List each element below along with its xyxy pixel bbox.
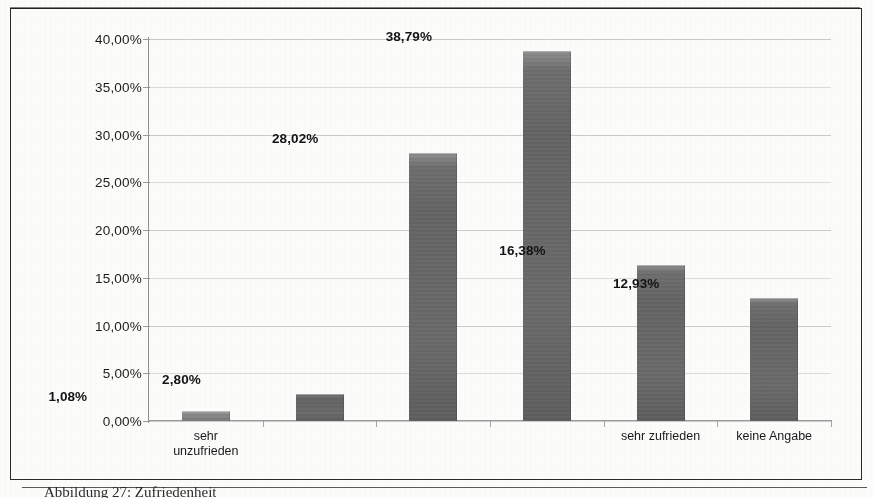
bar-value-label: 12,93%	[613, 276, 659, 291]
x-axis-label-line: keine Angabe	[736, 429, 812, 444]
y-axis-tick	[143, 230, 150, 231]
x-axis-tick	[263, 421, 264, 427]
x-axis-tick	[831, 421, 832, 427]
gridline	[149, 39, 831, 40]
y-axis-tick-label: 40,00%	[95, 32, 142, 47]
x-axis-category-label: sehr zufrieden	[621, 429, 700, 444]
y-axis-tick	[143, 182, 150, 183]
gridline	[149, 373, 831, 374]
bar	[296, 394, 344, 421]
x-axis-label-line: unzufrieden	[173, 444, 238, 459]
y-axis-tick-label: 5,00%	[103, 366, 142, 381]
bar	[182, 411, 230, 421]
bar	[750, 298, 798, 421]
bar-value-label: 28,02%	[272, 131, 318, 146]
bar	[523, 51, 571, 421]
x-axis-label-line: sehr zufrieden	[621, 429, 700, 444]
y-axis-tick-label: 0,00%	[103, 414, 142, 429]
y-axis-tick-label: 25,00%	[95, 175, 142, 190]
bar-value-label: 2,80%	[162, 372, 201, 387]
gridline	[149, 230, 831, 231]
y-axis-labels: 0,00%5,00%10,00%15,00%20,00%25,00%30,00%…	[11, 9, 142, 498]
figure-caption: Abbildung 27: Zufriedenheit	[44, 484, 216, 498]
y-axis-tick-label: 15,00%	[95, 270, 142, 285]
x-axis-tick	[717, 421, 718, 427]
gridline	[149, 278, 831, 279]
bar-value-label: 1,08%	[48, 389, 87, 404]
bar-value-label: 16,38%	[499, 243, 545, 258]
gridline	[149, 135, 831, 136]
x-axis-category-label: sehrunzufrieden	[173, 429, 238, 459]
x-axis-tick	[490, 421, 491, 427]
y-axis-tick-label: 10,00%	[95, 318, 142, 333]
y-axis-tick	[143, 278, 150, 279]
y-axis-tick	[143, 87, 150, 88]
figure-border: 0,00%5,00%10,00%15,00%20,00%25,00%30,00%…	[10, 8, 862, 480]
x-axis-tick	[376, 421, 377, 427]
x-axis-label-line: sehr	[173, 429, 238, 444]
scanned-page: 0,00%5,00%10,00%15,00%20,00%25,00%30,00%…	[0, 0, 873, 498]
y-axis-tick	[143, 135, 150, 136]
y-axis-tick-label: 30,00%	[95, 127, 142, 142]
y-axis-tick-label: 20,00%	[95, 223, 142, 238]
bar-value-label: 38,79%	[386, 29, 432, 44]
gridline	[149, 326, 831, 327]
y-axis-tick	[143, 421, 150, 422]
y-axis-tick	[143, 373, 150, 374]
gridline	[149, 87, 831, 88]
y-axis-tick-label: 35,00%	[95, 79, 142, 94]
plot-area	[149, 39, 831, 421]
bar	[409, 153, 457, 421]
gridline	[149, 182, 831, 183]
x-axis-category-label: keine Angabe	[736, 429, 812, 444]
x-axis-tick	[604, 421, 605, 427]
y-axis-tick	[143, 39, 150, 40]
y-axis-tick	[143, 326, 150, 327]
